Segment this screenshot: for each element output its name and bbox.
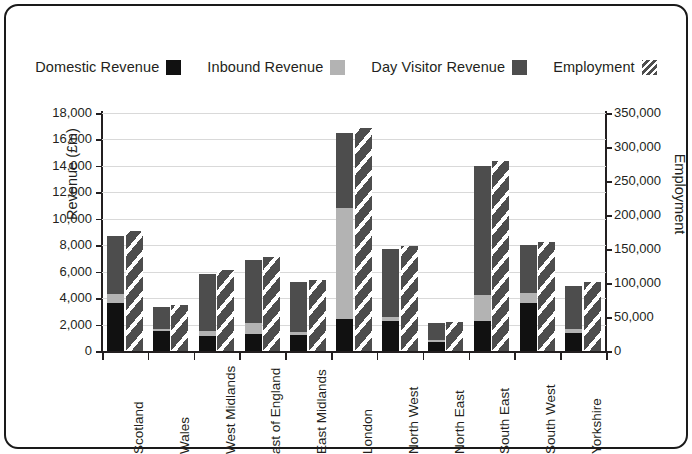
- inbound-revenue-segment: [520, 245, 537, 293]
- day-visitor-revenue-segment: [107, 294, 124, 303]
- x-axis-tick-label: South East: [497, 388, 512, 454]
- x-axis-tick: [560, 353, 562, 360]
- day-visitor-revenue-segment: [153, 329, 170, 332]
- employment-bar[interactable]: [538, 242, 555, 351]
- employment-bar[interactable]: [263, 257, 280, 351]
- x-axis-tick-label: West Midlands: [223, 366, 238, 454]
- x-axis-tick: [102, 353, 104, 360]
- day-visitor-revenue-segment: [474, 295, 491, 320]
- revenue-bar[interactable]: [290, 282, 307, 351]
- inbound-revenue-segment: [290, 282, 307, 332]
- day-visitor-revenue-segment: [245, 323, 262, 334]
- x-axis-tick: [377, 353, 379, 360]
- revenue-bar[interactable]: [153, 307, 170, 351]
- x-axis-tick-label: London: [360, 409, 375, 454]
- y-axis-right-tick: [607, 215, 612, 217]
- revenue-bar[interactable]: [565, 286, 582, 351]
- plot-area: [102, 113, 606, 351]
- x-axis-tick: [514, 353, 516, 360]
- y-axis-left-tick: [96, 351, 101, 353]
- employment-bar[interactable]: [355, 128, 372, 351]
- domestic-revenue-segment: [336, 319, 353, 351]
- x-axis-tick-label: Wales: [177, 417, 192, 454]
- x-axis-tick-label: North East: [452, 390, 467, 454]
- revenue-bar[interactable]: [245, 260, 262, 351]
- y-axis-left-tick: [96, 139, 101, 141]
- revenue-bar[interactable]: [199, 274, 216, 351]
- inbound-revenue-segment: [565, 286, 582, 329]
- y-axis-right-tick-label: 300,000: [614, 139, 684, 154]
- chart-card: Domestic RevenueInbound RevenueDay Visit…: [4, 4, 688, 449]
- y-axis-right-tick-label: 50,000: [614, 309, 684, 324]
- x-axis-tick: [239, 353, 241, 360]
- x-axis-tick-label: ast of England: [268, 368, 283, 454]
- y-axis-left-tick: [96, 245, 101, 247]
- revenue-bar[interactable]: [382, 249, 399, 351]
- domestic-revenue-segment: [428, 342, 445, 351]
- x-axis-tick: [331, 353, 333, 360]
- y-axis-left-tick-label: 18,000: [36, 105, 92, 120]
- y-axis-left-tick-label: 6,000: [36, 264, 92, 279]
- inbound-revenue-segment: [474, 166, 491, 296]
- legend-item[interactable]: Employment: [553, 59, 657, 75]
- y-axis-right-tick-label: 200,000: [614, 207, 684, 222]
- y-axis-left-tick-label: 4,000: [36, 290, 92, 305]
- employment-bar[interactable]: [401, 246, 418, 351]
- domestic-revenue-segment: [107, 303, 124, 351]
- domestic-revenue-segment: [565, 333, 582, 352]
- legend-item-label: Employment: [553, 59, 635, 75]
- y-axis-right-tick: [607, 113, 612, 115]
- inbound-revenue-segment: [428, 323, 445, 340]
- revenue-bar[interactable]: [520, 245, 537, 351]
- legend-item-label: Inbound Revenue: [207, 59, 323, 75]
- legend-item[interactable]: Domestic Revenue: [35, 59, 181, 75]
- employment-bar[interactable]: [584, 282, 601, 351]
- x-axis-tick-label: East Midlands: [314, 369, 329, 454]
- x-axis-tick-label: South West: [543, 384, 558, 454]
- x-axis-tick: [285, 353, 287, 360]
- y-axis-right-tick: [607, 317, 612, 319]
- inbound-revenue-segment: [245, 260, 262, 323]
- y-axis-left-tick-label: 12,000: [36, 184, 92, 199]
- day-visitor-revenue-segment: [428, 340, 445, 342]
- domestic-revenue-segment: [290, 335, 307, 351]
- y-axis-right-tick: [607, 147, 612, 149]
- employment-bar[interactable]: [171, 305, 188, 351]
- y-axis-left-tick-label: 10,000: [36, 211, 92, 226]
- employment-bar[interactable]: [492, 161, 509, 351]
- solid-black-icon: [166, 60, 181, 75]
- revenue-bar[interactable]: [107, 236, 124, 351]
- legend-item[interactable]: Day Visitor Revenue: [371, 59, 527, 75]
- legend-item[interactable]: Inbound Revenue: [207, 59, 345, 75]
- employment-bar[interactable]: [126, 231, 143, 351]
- diagonal-hatch-icon: [642, 60, 657, 75]
- domestic-revenue-segment: [153, 331, 170, 351]
- y-axis-left-tick-label: 2,000: [36, 317, 92, 332]
- y-axis-right-tick-label: 100,000: [614, 275, 684, 290]
- y-axis-right-tick-label: 0: [614, 343, 684, 358]
- day-visitor-revenue-segment: [520, 293, 537, 304]
- revenue-bar[interactable]: [474, 166, 491, 351]
- y-axis-left-tick: [96, 325, 101, 327]
- y-axis-left-tick: [96, 166, 101, 168]
- chart-legend: Domestic RevenueInbound RevenueDay Visit…: [6, 52, 686, 82]
- employment-bar[interactable]: [309, 280, 326, 351]
- x-axis-tick: [469, 353, 471, 360]
- revenue-bar[interactable]: [336, 133, 353, 351]
- y-axis-right-tick: [607, 351, 612, 353]
- domestic-revenue-segment: [382, 321, 399, 351]
- y-axis-left-tick-label: 0: [36, 343, 92, 358]
- y-axis-left-tick: [96, 192, 101, 194]
- x-axis-tick: [423, 353, 425, 360]
- x-axis-tick-label: North West: [406, 387, 421, 454]
- day-visitor-revenue-segment: [290, 332, 307, 335]
- employment-bar[interactable]: [446, 322, 463, 351]
- legend-item-label: Day Visitor Revenue: [371, 59, 505, 75]
- x-axis-tick: [194, 353, 196, 360]
- employment-bar[interactable]: [217, 270, 234, 351]
- revenue-bar[interactable]: [428, 323, 445, 351]
- day-visitor-revenue-segment: [336, 208, 353, 319]
- inbound-revenue-segment: [199, 274, 216, 330]
- inbound-revenue-segment: [336, 133, 353, 208]
- y-axis-right-tick: [607, 181, 612, 183]
